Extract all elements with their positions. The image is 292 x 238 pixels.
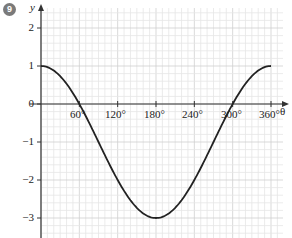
y-tick-label-neg3: −3 [10, 211, 34, 223]
x-axis-label: θ [280, 105, 285, 117]
y-tick-label-2: 2 [10, 21, 34, 33]
x-tick-label-60: 60° [70, 108, 85, 120]
y-axis-label: y [30, 1, 35, 13]
x-tick-label-120: 120° [105, 108, 126, 120]
x-tick-label-360: 360° [259, 108, 280, 120]
x-tick-label-240: 240° [182, 108, 203, 120]
grid [41, 8, 283, 238]
y-tick-label-0: 0 [10, 97, 34, 109]
y-tick-label-neg1: −1 [10, 135, 34, 147]
x-tick-label-180: 180° [144, 108, 165, 120]
x-tick-label-300: 300° [221, 108, 242, 120]
y-tick-label-1: 1 [10, 59, 34, 71]
y-tick-label-neg2: −2 [10, 173, 34, 185]
tick-marks [37, 28, 271, 218]
y-axis-arrow-icon [38, 4, 44, 11]
